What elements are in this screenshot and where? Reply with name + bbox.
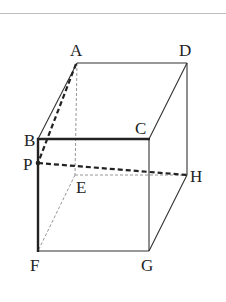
cuboid-diagram: A D B C P E H F G bbox=[0, 0, 226, 302]
point-P-dot bbox=[36, 161, 41, 166]
label-D: D bbox=[179, 41, 191, 60]
edge-GH bbox=[149, 175, 187, 251]
label-P: P bbox=[23, 155, 32, 174]
label-C: C bbox=[135, 119, 146, 138]
label-B: B bbox=[24, 131, 35, 150]
label-F: F bbox=[30, 256, 39, 275]
label-E: E bbox=[76, 178, 86, 197]
edge-EF-hidden bbox=[38, 175, 75, 251]
label-H: H bbox=[190, 167, 202, 186]
edge-DC bbox=[149, 63, 187, 139]
path-PH-dashed bbox=[38, 163, 187, 175]
path-AP-dashed bbox=[38, 64, 76, 163]
label-A: A bbox=[70, 41, 83, 60]
label-G: G bbox=[141, 256, 153, 275]
edge-AE-hidden bbox=[75, 63, 77, 175]
